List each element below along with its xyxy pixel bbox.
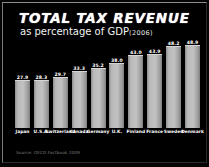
- bar-chart-plot-area: 27.928.329.733.335.238.043.043.948.248.9: [15, 36, 200, 128]
- bar-rect: [128, 55, 143, 128]
- category-axis: JapanU.S.A.SwitzerlandCanadaGermanyU.K.F…: [15, 129, 200, 139]
- bar-value-label: 33.3: [73, 66, 85, 71]
- category-label-japan: Japan: [15, 129, 29, 134]
- bar-value-label: 48.9: [187, 40, 199, 45]
- bar-column: 29.7: [53, 36, 68, 128]
- bar-value-label: 27.9: [17, 75, 29, 80]
- category-label-canada: Canada: [70, 129, 89, 134]
- page-title: TOTAL TAX REVENUE: [19, 10, 190, 26]
- source-note: Source: OECD Factbook 2009: [16, 150, 80, 155]
- category-label-denmark: Denmark: [181, 129, 204, 134]
- bar-value-label: 48.2: [168, 41, 180, 46]
- bar-rect: [34, 80, 49, 128]
- bar-rect: [166, 46, 181, 128]
- bar-column: 28.3: [34, 36, 49, 128]
- slide-inner: TOTAL TAX REVENUE as percentage of GDP (…: [3, 3, 206, 162]
- bar-rect: [15, 80, 30, 128]
- bar-value-label: 43.9: [149, 49, 161, 54]
- bar-column: 27.9: [15, 36, 30, 128]
- category-label-france: France: [146, 129, 163, 134]
- bar-column: 43.0: [128, 36, 143, 128]
- bar-column: 38.0: [109, 36, 124, 128]
- bar-rect: [72, 71, 87, 128]
- category-label-finland: Finland: [126, 129, 145, 134]
- bar-rect: [147, 54, 162, 128]
- bar-rect: [185, 45, 200, 128]
- category-label-u-k: U.K.: [112, 129, 123, 134]
- bar-rect: [53, 77, 68, 128]
- slide-canvas: TOTAL TAX REVENUE as percentage of GDP (…: [0, 0, 209, 167]
- bar-value-label: 43.0: [130, 50, 142, 55]
- bar-value-label: 38.0: [111, 58, 123, 63]
- bar-column: 43.9: [147, 36, 162, 128]
- bar-column: 33.3: [72, 36, 87, 128]
- bar-rect: [91, 68, 106, 128]
- bar-value-label: 28.3: [36, 75, 48, 80]
- category-label-germany: Germany: [87, 129, 110, 134]
- bar-value-label: 35.2: [92, 63, 104, 68]
- bar-column: 48.9: [185, 36, 200, 128]
- bar-rect: [109, 63, 124, 128]
- bar-column: 48.2: [166, 36, 181, 128]
- bar-column: 35.2: [91, 36, 106, 128]
- bar-value-label: 29.7: [54, 72, 66, 77]
